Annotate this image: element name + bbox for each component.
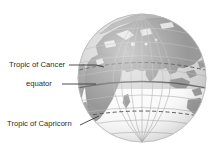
tropic-of-cancer-label: Tropic of Cancer: [9, 61, 65, 69]
equator-label: equator: [26, 80, 52, 88]
globe-illustration: [0, 0, 216, 156]
globe-shading: [78, 14, 206, 142]
tropic-of-capricorn-label: Tropic of Capricorn: [7, 120, 72, 128]
globe-diagram: Tropic of Cancer equator Tropic of Capri…: [0, 0, 216, 156]
